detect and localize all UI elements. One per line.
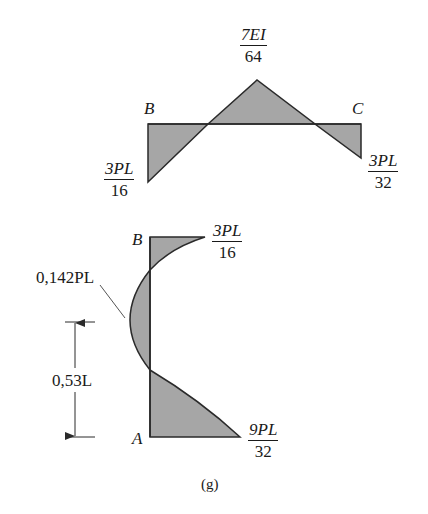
left-negative-region xyxy=(148,124,208,182)
center-positive-region xyxy=(208,80,315,124)
max-moment-label: 0,142PL xyxy=(36,269,94,286)
top-end-value-label: 3PL 16 xyxy=(212,222,242,261)
right-end-value-label: 3PL 32 xyxy=(368,152,398,191)
node-b-label-bottom: B xyxy=(132,231,142,248)
right-negative-region xyxy=(315,124,361,158)
node-b-label-top: B xyxy=(144,100,154,117)
node-c-label: C xyxy=(352,100,363,117)
bottom-end-value-label: 9PL 32 xyxy=(248,421,278,460)
figure-caption: (g) xyxy=(201,476,219,493)
middle-region xyxy=(130,270,150,370)
bottom-region xyxy=(150,370,240,437)
node-a-label: A xyxy=(132,430,142,447)
peak-value-label: 7EI 64 xyxy=(240,26,267,65)
moment-diagram-figure: 7EI 64 B C 3PL 16 3PL 32 B 3PL 16 0,142P… xyxy=(0,0,428,514)
left-end-value-label: 3PL 16 xyxy=(104,160,134,199)
top-region xyxy=(150,237,205,270)
leader-line xyxy=(100,285,125,318)
bottom-moment-diagram xyxy=(65,237,240,437)
top-moment-diagram xyxy=(148,80,361,182)
dimension-label: 0,53L xyxy=(52,372,92,389)
